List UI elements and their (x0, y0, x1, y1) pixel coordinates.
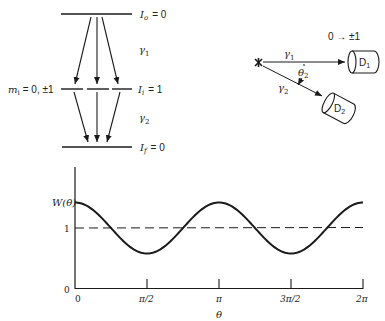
substate-label: mi= 0, ±1 (8, 84, 54, 97)
y-axis-label: W(θ) (52, 197, 76, 208)
source-star-icon (255, 58, 262, 67)
gamma1-arrows (75, 17, 118, 84)
svg-text:θ2: θ2 (298, 67, 309, 80)
detector1-icon: D1 (348, 51, 379, 73)
gamma2-ray-label: γ2 (278, 82, 288, 96)
y-tick-0: 0 (64, 285, 70, 295)
angular-correlation-chart: W(θ) 1 0 0 π/2 π 3π/2 2π θ (52, 167, 369, 320)
x-tick-3pi-half: 3π/2 (280, 294, 301, 304)
figure: Io= 0 γ1 Ii= 1 mi= 0, ±1 γ2 If= 0 0 → ±1… (0, 0, 385, 321)
x-tick-pi: π (215, 294, 223, 304)
gamma2-arrows (74, 92, 120, 142)
gamma2-level-label: γ2 (139, 112, 149, 126)
level-diagram: Io= 0 γ1 Ii= 1 mi= 0, ±1 γ2 If= 0 (8, 9, 167, 155)
gamma1-ray-label: γ1 (284, 48, 294, 62)
detector-diagram: 0 → ±1 γ1 γ2 θ2 D1 (255, 31, 379, 126)
initial-level-label: Io= 0 (139, 9, 167, 22)
x-tick-0: 0 (75, 294, 81, 304)
detector2-icon: D2 (320, 91, 359, 125)
isotropic-dashed-line (75, 228, 363, 229)
gamma1-level-label: γ1 (139, 44, 149, 58)
x-tick-pi-half: π/2 (138, 294, 154, 304)
x-tick-2pi: 2π (355, 294, 369, 304)
angle-marker: θ2 (298, 64, 309, 85)
final-level-label: If= 0 (139, 142, 165, 155)
gamma2-ray (263, 66, 322, 96)
intermediate-level-label: Ii= 1 (137, 84, 163, 97)
transition-label: 0 → ±1 (328, 31, 361, 42)
x-axis-label: θ (216, 309, 222, 320)
x-ticks (147, 279, 363, 289)
y-tick-1: 1 (64, 224, 70, 234)
